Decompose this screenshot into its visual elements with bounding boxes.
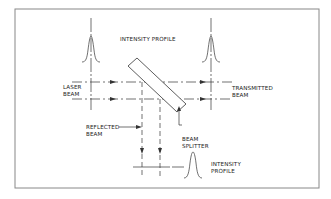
laser-beam-label-2: BEAM <box>63 91 79 97</box>
arrow-right-icon <box>200 80 206 84</box>
arrow-right-icon <box>110 97 116 101</box>
reflected-beam-label-1: REFLECTED <box>86 124 119 130</box>
intensity-profile-top-label: INTENSITY PROFILE <box>120 36 176 42</box>
right-intensity-profile-icon <box>202 18 220 110</box>
laser-beam-label-1: LASER <box>63 84 82 90</box>
arrow-right-icon <box>110 80 116 84</box>
beam-splitter-label-1: BEAM <box>182 136 198 142</box>
transmitted-beam-label-2: BEAM <box>232 92 248 98</box>
bottom-intensity-profile-icon <box>184 152 202 178</box>
beam-splitter-plate <box>128 58 186 112</box>
transmitted-beam-label-1: TRANSMITTED <box>231 85 273 91</box>
arrow-down-icon <box>158 148 162 154</box>
intensity-profile-bottom-label-1: INTENSITY <box>211 161 241 167</box>
arrow-down-icon <box>140 148 144 154</box>
beam-splitter-label-2: SPLITTER <box>182 143 209 149</box>
arrow-right-icon <box>200 97 206 101</box>
beam-splitter-diagram: INTENSITY PROFILE LASER BEAM TRANSMITTED… <box>0 0 331 199</box>
intensity-profile-bottom-label-2: PROFILE <box>211 168 235 174</box>
left-intensity-profile-icon <box>82 18 100 110</box>
arrow-right-icon <box>136 125 142 129</box>
reflected-beam-label-2: BEAM <box>86 131 102 137</box>
